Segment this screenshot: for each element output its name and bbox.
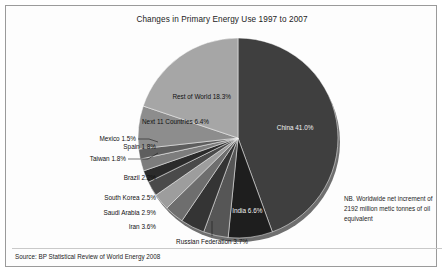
slice-label-mexico: Mexico 1.5% (99, 135, 136, 142)
slice-label-china: China 41.0% (277, 124, 314, 131)
slice-label-india: India 6.6% (232, 207, 263, 214)
source-caption: Source: BP Statistical Review of World E… (15, 253, 160, 260)
source-divider (12, 248, 442, 249)
note-text: NB. Worldwide net increment of 2192 mill… (344, 194, 438, 223)
slice-label-spain: Spain 1.8% (123, 143, 156, 151)
slice-label-next-11-countries: Next 11 Countries 6.4% (142, 118, 209, 125)
slice-label-rest-of-world: Rest of World 18.3% (172, 93, 231, 100)
slice-label-south-korea: South Korea 2.5% (104, 194, 156, 201)
slice-label-taiwan: Taiwan 1.8% (90, 155, 127, 162)
slice-label-iran: Iran 3.6% (129, 223, 157, 230)
pie-chart-svg: China 41.0%India 6.6%Russian Federation … (6, 6, 438, 268)
slice-label-brazil: Brazil 2.2% (124, 174, 157, 181)
slice-label-saudi-arabia: Saudi Arabia 2.9% (103, 209, 156, 216)
pie-chart: China 41.0%India 6.6%Russian Federation … (6, 6, 438, 268)
slice-label-russian-federation: Russian Federation 3.7% (176, 238, 248, 245)
chart-frame: Changes in Primary Energy Use 1997 to 20… (5, 5, 437, 267)
